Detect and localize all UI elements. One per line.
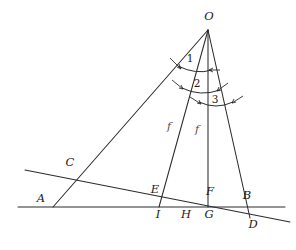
angle-arc-group [178, 66, 233, 106]
point-label-E: E [151, 184, 159, 196]
point-label-C: C [66, 157, 75, 169]
angle-2-arrow-right [217, 83, 228, 91]
point-label-H: H [181, 209, 191, 221]
geometry-figure: O A B C D E F G H I 1 2 3 f f [0, 0, 296, 250]
point-label-O: O [204, 11, 213, 23]
point-label-A: A [37, 193, 45, 205]
angle-1-arrow-right [209, 68, 220, 72]
angle-label-1: 1 [187, 53, 194, 64]
point-label-I: I [156, 209, 161, 221]
angle-1-arc [178, 66, 212, 72]
point-label-F: F [206, 186, 214, 198]
angle-label-2: 2 [194, 78, 201, 89]
angle-arrowhead-group [170, 58, 243, 104]
point-label-B: B [243, 190, 251, 202]
ray-O-I [159, 30, 208, 207]
geometry-canvas [0, 0, 296, 250]
point-label-D: D [248, 219, 257, 231]
segment-label-f-left: f [167, 121, 171, 132]
angle-3-arrow-left [190, 97, 201, 104]
point-label-G: G [204, 209, 213, 221]
segment-label-f-right: f [195, 124, 199, 135]
angle-label-3: 3 [212, 94, 219, 105]
angle-3-arrow-right [232, 96, 243, 103]
angle-2-arrow-left [172, 80, 183, 89]
